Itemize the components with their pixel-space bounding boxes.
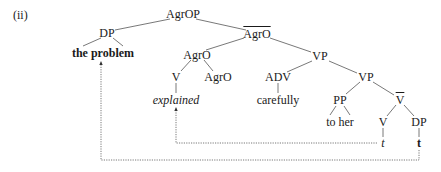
node-adv: ADV — [265, 70, 291, 84]
node-agro-mid: AgrO — [183, 48, 210, 62]
node-v-trace-parent: V — [379, 115, 388, 129]
node-pp: PP — [333, 93, 346, 107]
node-vp2: VP — [358, 70, 373, 84]
node-v-left: V — [172, 70, 181, 84]
node-explained: explained — [153, 93, 200, 107]
node-agro-bar: AgrO — [243, 27, 270, 41]
node-the-problem: the problem — [72, 46, 134, 60]
node-v-trace: t — [381, 136, 384, 150]
node-agro-head: AgrO — [204, 70, 231, 84]
node-dp-trace: t — [417, 136, 421, 150]
example-number: (ii) — [13, 8, 28, 22]
node-agrop: AgrOP — [166, 7, 200, 21]
node-dp-obj: DP — [411, 115, 426, 129]
node-v-bar: V — [396, 93, 405, 107]
node-vp1: VP — [312, 49, 327, 63]
tree-branches — [0, 0, 441, 172]
node-to-her: to her — [326, 115, 354, 129]
node-dp-spec: DP — [99, 26, 114, 40]
node-carefully: carefully — [257, 93, 300, 107]
